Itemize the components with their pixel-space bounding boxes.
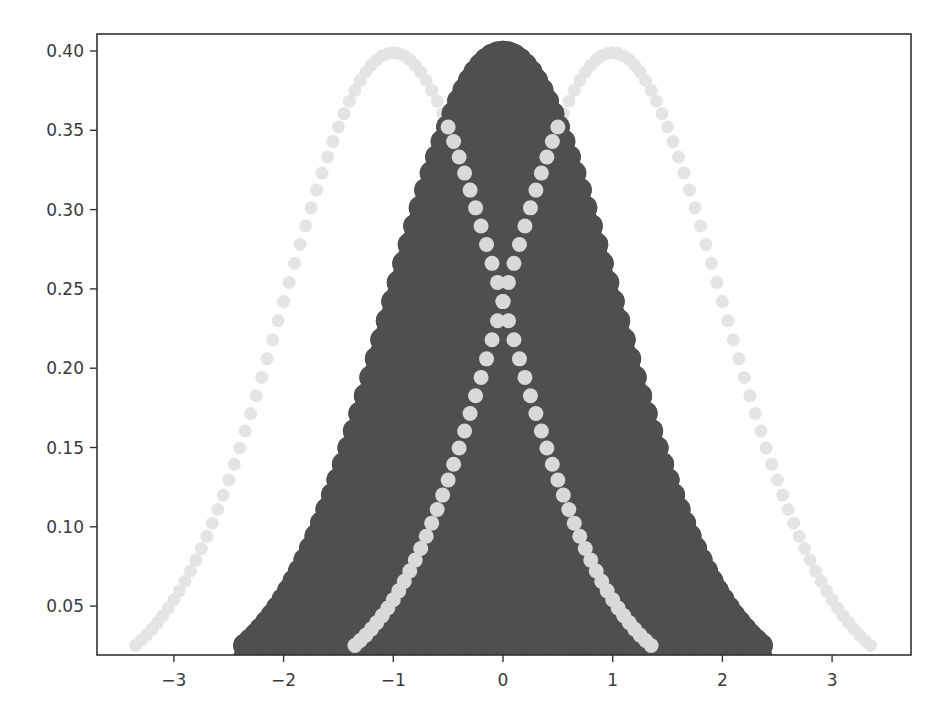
y-tick-label: 0.15 xyxy=(46,438,84,458)
plot-area xyxy=(129,41,877,679)
x-tick-label: 2 xyxy=(717,670,728,690)
x-axis: −3−2−10123 xyxy=(161,655,837,690)
y-tick-label: 0.20 xyxy=(46,358,84,378)
x-tick-label: −2 xyxy=(271,670,296,690)
x-tick-label: −3 xyxy=(161,670,186,690)
y-tick-label: 0.25 xyxy=(46,279,84,299)
y-tick-label: 0.35 xyxy=(46,120,84,140)
x-tick-label: 1 xyxy=(607,670,618,690)
x-tick-label: −1 xyxy=(381,670,406,690)
y-tick-label: 0.40 xyxy=(46,41,84,61)
y-tick-label: 0.10 xyxy=(46,517,84,537)
series-center-filled xyxy=(233,41,773,679)
y-tick-label: 0.05 xyxy=(46,596,84,616)
y-tick-label: 0.30 xyxy=(46,200,84,220)
x-tick-label: 3 xyxy=(827,670,838,690)
x-tick-label: 0 xyxy=(498,670,509,690)
chart: −3−2−10123 0.050.100.150.200.250.300.350… xyxy=(0,0,937,717)
y-axis: 0.050.100.150.200.250.300.350.40 xyxy=(46,41,97,616)
